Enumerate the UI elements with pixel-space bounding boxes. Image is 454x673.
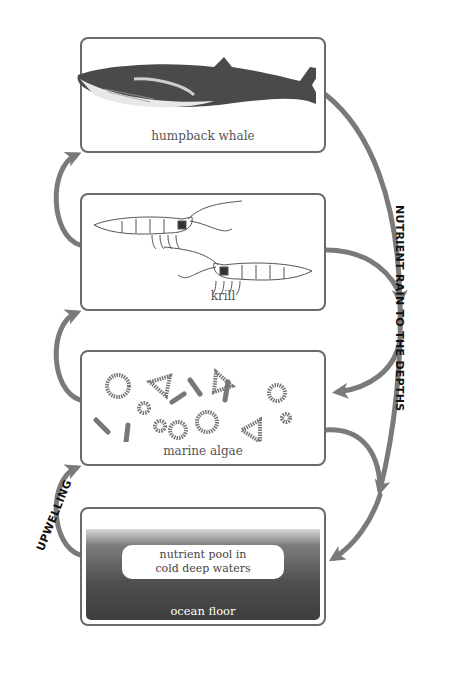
nutrient-pool-line1: nutrient pool in [122,548,284,562]
arrow-to-ocean [334,495,380,558]
arrow-algae-to-krill [56,313,80,400]
node-marine-algae: marine algae [80,350,326,466]
arrow-krill-to-whale [56,155,80,245]
nutrient-rain-label: NUTRIENT RAIN TO THE DEPTHS [393,205,406,412]
marine-algae-illustration [82,352,324,442]
node-label-krill: krill [122,289,324,303]
node-krill: krill [80,193,326,311]
arrow-whale-down [326,95,400,300]
node-label-ocean-floor: ocean floor [82,604,324,618]
nutrient-cycle-diagram: humpback whale krill [0,0,454,673]
node-label-algae: marine algae [82,444,324,458]
nutrient-pool-label: nutrient pool in cold deep waters [122,545,284,579]
arrow-algae-out [326,430,380,485]
node-humpback-whale: humpback whale [80,37,326,153]
humpback-whale-illustration [74,45,316,135]
arrow-krill-out [326,250,398,290]
node-label-whale: humpback whale [82,129,324,143]
arrow-to-algae [338,340,400,392]
node-ocean-floor: nutrient pool in cold deep waters ocean … [80,507,326,626]
nutrient-pool-line2: cold deep waters [122,562,284,576]
upwelling-label: UPWELLING [34,478,74,553]
